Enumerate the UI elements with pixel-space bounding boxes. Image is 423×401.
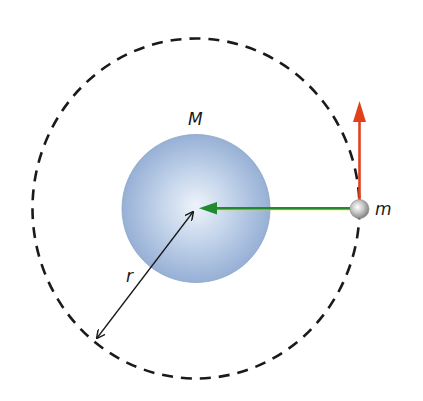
central-mass-label: M [188,109,203,129]
orbiting-mass-label: m [375,199,392,219]
velocity-arrow [353,101,366,200]
orbiting-body [350,200,369,219]
orbit-diagram: M m r [0,0,423,401]
radius-label: r [126,266,134,286]
diagram-canvas: M m r [0,0,423,401]
